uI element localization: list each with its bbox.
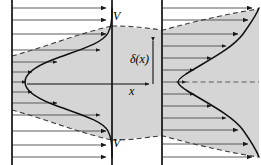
velocity-label-bottom: V [113,137,120,149]
velocity-label-top: V [113,10,120,22]
boundary-thickness-label: δ(x) [130,53,149,65]
boundary-layer-figure: V V δ(x) x [0,0,261,165]
figure-canvas [0,0,261,165]
x-axis-label: x [129,85,134,97]
left-shaded-boundary-region [12,26,163,140]
